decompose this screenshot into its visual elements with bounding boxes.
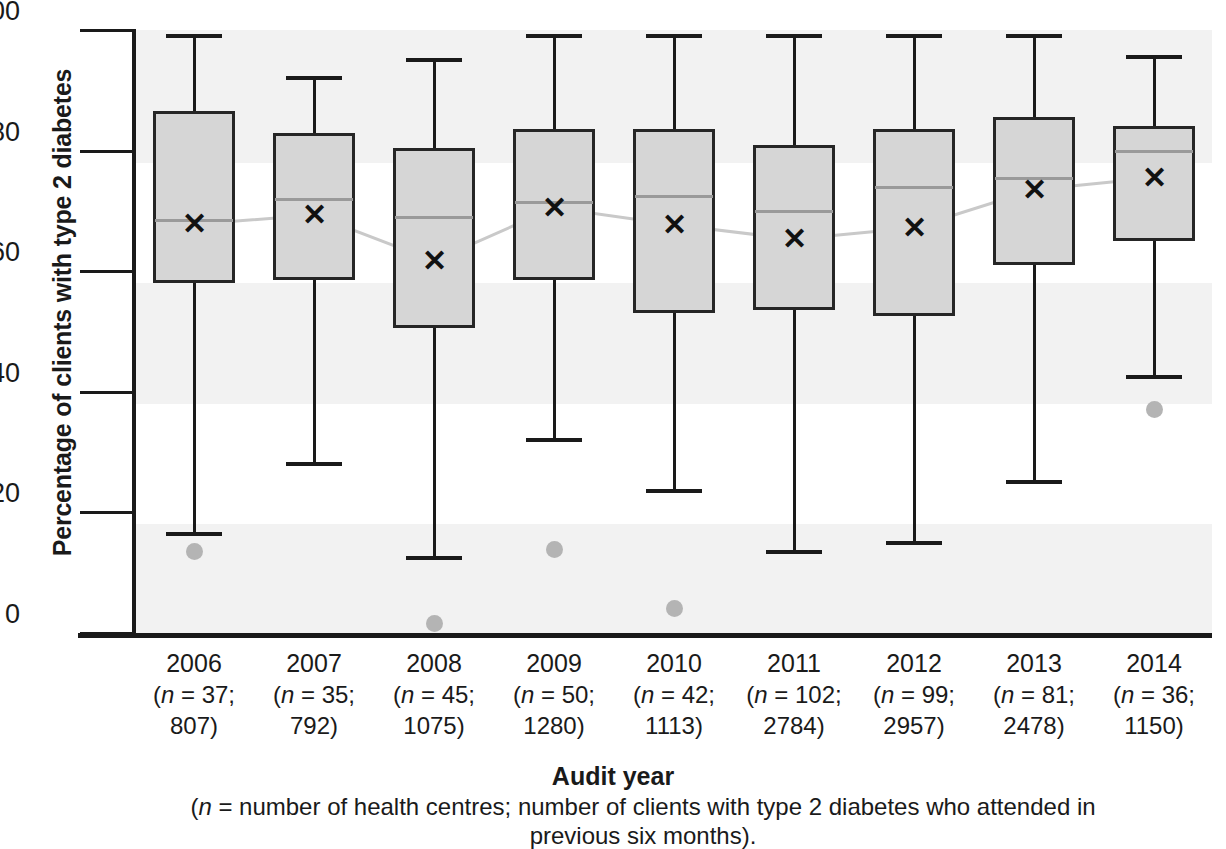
category-year: 2010 [604,648,744,679]
whisker-cap-high [286,76,342,80]
category-n-clients: 1113) [604,710,744,741]
y-axis-tick-label: 100 [0,0,20,27]
whisker-cap-high [406,58,462,62]
x-axis-line [78,633,1212,638]
mean-marker: ✕ [781,226,807,252]
whisker-cap-high [526,34,582,38]
box-series: ✕✕✕✕✕✕✕✕✕ [132,30,1212,633]
whisker-cap-high [886,34,942,38]
mean-marker: ✕ [1141,165,1167,191]
x-axis-category-label: 2006(n = 37;807) [124,648,264,741]
mean-marker: ✕ [901,215,927,241]
y-axis-tick-label: 20 [0,478,20,509]
median-line [1115,150,1193,153]
whisker-cap-low [646,489,702,493]
whisker-cap-low [1126,375,1182,379]
mean-marker: ✕ [541,195,567,221]
outlier-point [1146,401,1163,418]
x-axis-category-label: 2008(n = 45;1075) [364,648,504,741]
category-n-centres: (n = 81; [964,679,1104,710]
category-n-clients: 792) [244,710,384,741]
outlier-point [546,541,563,558]
whisker-cap-low [1006,480,1062,484]
outlier-point [666,600,683,617]
outlier-point [426,615,443,632]
category-n-centres: (n = 37; [124,679,264,710]
category-n-clients: 1075) [364,710,504,741]
category-n-centres: (n = 42; [604,679,744,710]
category-n-clients: 2478) [964,710,1104,741]
x-axis-category-label: 2011(n = 102;2784) [724,648,864,741]
category-n-clients: 2957) [844,710,984,741]
whisker-cap-low [886,541,942,545]
category-n-centres: (n = 45; [364,679,504,710]
whisker-cap-high [1006,34,1062,38]
category-year: 2012 [844,648,984,679]
y-axis-tick-label: 60 [0,237,20,268]
whisker-cap-high [646,34,702,38]
category-n-clients: 1280) [484,710,624,741]
caption-line-2: previous six months). [530,822,757,849]
category-n-clients: 807) [124,710,264,741]
y-axis-title: Percentage of clients with type 2 diabet… [48,13,77,613]
x-axis-title: Audit year [0,762,1226,791]
whisker-cap-high [1126,55,1182,59]
plot-area: 020406080100 ✕✕✕✕✕✕✕✕✕ [132,30,1212,633]
mean-marker: ✕ [181,211,207,237]
mean-marker: ✕ [421,248,447,274]
whisker-cap-high [166,34,222,38]
x-axis-category-label: 2010(n = 42;1113) [604,648,744,741]
box [393,148,475,329]
category-n-clients: 1150) [1084,710,1224,741]
category-n-centres: (n = 36; [1084,679,1224,710]
whisker-cap-low [406,556,462,560]
outlier-point [186,543,203,560]
category-year: 2009 [484,648,624,679]
y-axis-tick-label: 80 [0,117,20,148]
median-line [395,216,473,219]
y-axis-tick [80,632,136,635]
y-axis-tick [80,511,136,514]
whisker-cap-low [526,438,582,442]
mean-marker: ✕ [1021,177,1047,203]
x-axis-category-label: 2009(n = 50;1280) [484,648,624,741]
caption-line-1: (n = number of health centres; number of… [190,793,1095,820]
median-line [755,210,833,213]
category-n-centres: (n = 50; [484,679,624,710]
y-axis-tick [80,29,136,32]
mean-marker: ✕ [301,202,327,228]
category-year: 2014 [1084,648,1224,679]
y-axis-tick-label: 40 [0,358,20,389]
box-plot-figure: Percentage of clients with type 2 diabet… [0,0,1226,849]
whisker-cap-low [166,532,222,536]
category-year: 2007 [244,648,384,679]
category-year: 2006 [124,648,264,679]
y-axis-tick [80,270,136,273]
category-n-centres: (n = 102; [724,679,864,710]
category-year: 2008 [364,648,504,679]
category-n-clients: 2784) [724,710,864,741]
figure-caption: (n = number of health centres; number of… [76,792,1210,849]
box [153,111,235,283]
x-axis-category-label: 2013(n = 81;2478) [964,648,1104,741]
y-axis-tick [80,150,136,153]
y-axis-tick [80,391,136,394]
x-axis-category-label: 2014(n = 36;1150) [1084,648,1224,741]
x-axis-category-label: 2007(n = 35;792) [244,648,384,741]
mean-marker: ✕ [661,212,687,238]
median-line [875,186,953,189]
category-n-centres: (n = 35; [244,679,384,710]
median-line [635,195,713,198]
whisker-cap-low [286,462,342,466]
whisker-cap-low [766,550,822,554]
category-year: 2013 [964,648,1104,679]
category-year: 2011 [724,648,864,679]
category-n-centres: (n = 99; [844,679,984,710]
y-axis-tick-label: 0 [0,599,20,630]
whisker-cap-high [766,34,822,38]
x-axis-category-label: 2012(n = 99;2957) [844,648,984,741]
